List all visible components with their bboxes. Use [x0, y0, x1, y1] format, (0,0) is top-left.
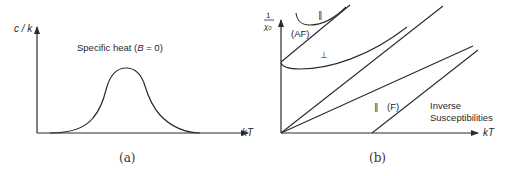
diagram-canvas: c / k kT Specific heat (B = 0) (a) 1 χ₀ …	[0, 0, 510, 176]
af-label: (AF)	[291, 28, 309, 39]
f-parallel-label: ∥	[374, 102, 379, 112]
panel-a-x-axis-label: kT	[242, 127, 254, 138]
panel-b-y-label-numerator: 1	[266, 11, 271, 20]
paramagnet-line	[281, 6, 443, 133]
specific-heat-label-pre: Specific heat (	[77, 42, 138, 53]
panel-b-x-axis-label: kT	[483, 127, 495, 138]
inverse-susceptibilities-title-line2: Susceptibilities	[430, 112, 493, 123]
panel-a-caption: (a)	[119, 151, 136, 165]
specific-heat-label: Specific heat (B = 0)	[77, 42, 163, 53]
f-label: (F)	[387, 101, 399, 112]
panel-b-y-label-denominator: χ₀	[263, 22, 272, 31]
inverse-susceptibilities-title-line1: Inverse	[430, 100, 461, 111]
specific-heat-curve	[50, 68, 200, 133]
specific-heat-label-post: = 0)	[144, 42, 163, 53]
af-parallel-label: ∥	[318, 10, 323, 20]
af-perpendicular-label: ⊥	[320, 50, 328, 60]
panel-b-caption: (b)	[369, 151, 386, 165]
panel-a-specific-heat: c / k kT Specific heat (B = 0) (a)	[14, 23, 254, 165]
panel-a-y-axis-label: c / k	[14, 23, 33, 34]
panel-b-inverse-susceptibilities: 1 χ₀ kT ∥ (AF) ⊥ ∥ (F) Inverse Susceptib…	[263, 5, 495, 165]
